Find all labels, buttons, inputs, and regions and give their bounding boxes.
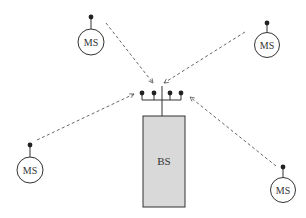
antenna-element-icon xyxy=(179,91,184,96)
ms-antenna-icon xyxy=(89,15,94,20)
antenna-element-icon xyxy=(152,91,157,96)
link-arrow-top-left xyxy=(106,23,153,83)
base-station-label: BS xyxy=(157,155,170,167)
ms-label: MS xyxy=(23,165,37,176)
antenna-array xyxy=(140,86,184,116)
mobile-station-top-left: MS xyxy=(78,15,104,55)
ms-label: MS xyxy=(276,185,290,196)
diagram-canvas: BS MS MS MS xyxy=(0,0,306,218)
link-arrow-top-right xyxy=(164,32,245,83)
link-arrow-bottom-left xyxy=(37,94,134,140)
ms-antenna-icon xyxy=(281,165,286,170)
base-station: BS xyxy=(143,116,185,207)
mobile-station-bottom-left: MS xyxy=(17,143,43,183)
ms-antenna-icon xyxy=(265,21,270,26)
ms-antenna-icon xyxy=(28,143,33,148)
ms-label: MS xyxy=(84,37,98,48)
link-arrow-bottom-right xyxy=(190,97,276,166)
mobile-station-bottom-right: MS xyxy=(271,165,296,203)
ms-label: MS xyxy=(260,40,274,51)
mobile-station-top-right: MS xyxy=(255,21,280,58)
antenna-element-icon xyxy=(140,91,145,96)
antenna-element-icon xyxy=(168,91,173,96)
